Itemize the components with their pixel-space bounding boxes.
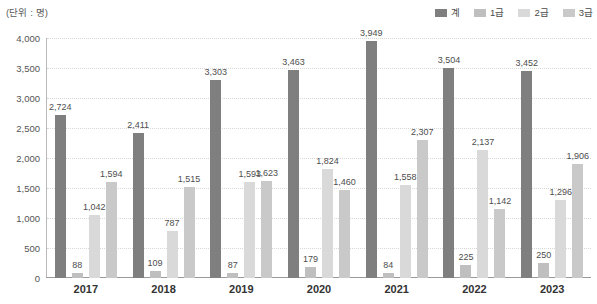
y-tick-label: 0 <box>35 273 40 284</box>
bar-value-label: 1,906 <box>566 152 589 161</box>
bar-2급-2021[interactable]: 1,558 <box>400 38 411 278</box>
bar-2급-2023[interactable]: 1,296 <box>555 38 566 278</box>
bar-계-2020[interactable]: 3,463 <box>288 38 299 278</box>
legend-item-1[interactable]: 계 <box>435 8 460 18</box>
bar-value-label: 1,824 <box>316 157 339 166</box>
bar-rect <box>55 115 66 278</box>
bar-value-label: 2,411 <box>127 121 149 130</box>
legend-label: 계 <box>451 8 460 18</box>
bar-2급-2017[interactable]: 1,042 <box>89 38 100 278</box>
legend-swatch-icon <box>435 9 447 17</box>
legend-item-4[interactable]: 3급 <box>563 8 593 18</box>
x-tick-label-2019: 2019 <box>202 283 280 295</box>
y-tick-label: 2,000 <box>16 153 40 164</box>
y-tick-label: 3,000 <box>16 93 40 104</box>
y-tick-label: 4,000 <box>16 33 40 44</box>
unit-label: (단위 : 명) <box>6 5 48 19</box>
bar-rect <box>72 273 83 278</box>
bar-value-label: 1,623 <box>256 169 279 178</box>
bar-2급-2022[interactable]: 2,137 <box>477 38 488 278</box>
bar-1급-2023[interactable]: 250 <box>538 38 549 278</box>
legend-swatch-icon <box>563 9 575 17</box>
bar-value-label: 3,303 <box>205 68 228 77</box>
bar-rect <box>366 41 377 278</box>
bar-group-2022: 3,5042252,1371,142 <box>436 38 514 278</box>
bar-rect <box>106 182 117 278</box>
bar-3급-2017[interactable]: 1,594 <box>106 38 117 278</box>
bar-value-label: 225 <box>458 253 473 262</box>
x-tick-label-2023: 2023 <box>513 283 591 295</box>
bar-value-label: 1,558 <box>394 173 417 182</box>
bar-계-2019[interactable]: 3,303 <box>210 38 221 278</box>
legend-swatch-icon <box>518 9 530 17</box>
legend-swatch-icon <box>474 9 486 17</box>
bar-1급-2017[interactable]: 88 <box>72 38 83 278</box>
legend-label: 1급 <box>490 8 504 18</box>
bar-rect <box>521 71 532 278</box>
bar-2급-2018[interactable]: 787 <box>167 38 178 278</box>
x-axis-labels: 2017201820192020202120222023 <box>47 283 591 295</box>
bar-value-label: 1,460 <box>333 178 356 187</box>
y-tick-label: 1,500 <box>16 183 40 194</box>
bar-value-label: 3,504 <box>438 56 461 65</box>
plot-area: 05001,0001,5002,0002,5003,0003,5004,000 … <box>46 38 591 278</box>
bar-계-2018[interactable]: 2,411 <box>133 38 144 278</box>
bar-rect <box>210 80 221 278</box>
y-tick-label: 3,500 <box>16 63 40 74</box>
bar-groups: 2,724881,0421,5942,4111097871,5153,30387… <box>47 38 591 278</box>
bar-rect <box>383 273 394 278</box>
bar-value-label: 179 <box>303 255 318 264</box>
bar-rect <box>305 267 316 278</box>
bar-group-2018: 2,4111097871,515 <box>125 38 203 278</box>
bar-rect <box>460 265 471 279</box>
bar-group-2019: 3,303871,5931,623 <box>202 38 280 278</box>
y-tick-label: 500 <box>24 243 40 254</box>
bar-3급-2019[interactable]: 1,623 <box>261 38 272 278</box>
legend-item-3[interactable]: 2급 <box>518 8 548 18</box>
bar-1급-2020[interactable]: 179 <box>305 38 316 278</box>
bar-계-2021[interactable]: 3,949 <box>366 38 377 278</box>
bar-rect <box>150 271 161 278</box>
legend-label: 2급 <box>534 8 548 18</box>
bar-계-2023[interactable]: 3,452 <box>521 38 532 278</box>
bar-1급-2022[interactable]: 225 <box>460 38 471 278</box>
bar-chart: (단위 : 명) 계1급2급3급 05001,0001,5002,0002,50… <box>0 0 597 304</box>
bar-rect <box>288 70 299 278</box>
x-tick-label-2022: 2022 <box>436 283 514 295</box>
bar-rect <box>477 150 488 278</box>
legend-label: 3급 <box>579 8 593 18</box>
bar-group-2021: 3,949841,5582,307 <box>358 38 436 278</box>
bar-2급-2019[interactable]: 1,593 <box>244 38 255 278</box>
bar-value-label: 1,515 <box>178 175 201 184</box>
bar-group-2023: 3,4522501,2961,906 <box>513 38 591 278</box>
bar-3급-2018[interactable]: 1,515 <box>184 38 195 278</box>
bar-value-label: 3,463 <box>282 58 305 67</box>
bar-rect <box>443 68 454 278</box>
bar-계-2022[interactable]: 3,504 <box>443 38 454 278</box>
bar-rect <box>184 187 195 278</box>
bar-value-label: 2,137 <box>472 138 495 147</box>
bar-3급-2023[interactable]: 1,906 <box>572 38 583 278</box>
bar-rect <box>227 273 238 278</box>
bar-rect <box>167 231 178 278</box>
bar-value-label: 250 <box>536 251 551 260</box>
bar-value-label: 88 <box>72 261 82 270</box>
bar-1급-2021[interactable]: 84 <box>383 38 394 278</box>
bar-1급-2019[interactable]: 87 <box>227 38 238 278</box>
x-tick-label-2017: 2017 <box>47 283 125 295</box>
bar-value-label: 1,296 <box>549 188 572 197</box>
bar-value-label: 3,452 <box>515 59 538 68</box>
x-tick-label-2021: 2021 <box>358 283 436 295</box>
bar-rect <box>572 164 583 278</box>
bar-계-2017[interactable]: 2,724 <box>55 38 66 278</box>
bar-1급-2018[interactable]: 109 <box>150 38 161 278</box>
bar-2급-2020[interactable]: 1,824 <box>322 38 333 278</box>
bar-value-label: 787 <box>165 219 180 228</box>
bar-3급-2020[interactable]: 1,460 <box>339 38 350 278</box>
bar-3급-2021[interactable]: 2,307 <box>417 38 428 278</box>
y-tick-label: 2,500 <box>16 123 40 134</box>
bar-value-label: 109 <box>148 259 163 268</box>
bar-3급-2022[interactable]: 1,142 <box>494 38 505 278</box>
bar-rect <box>494 209 505 278</box>
legend-item-2[interactable]: 1급 <box>474 8 504 18</box>
